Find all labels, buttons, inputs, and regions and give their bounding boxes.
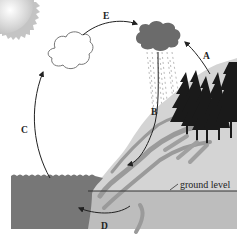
arrow-c [34,72,50,178]
label-d: D [101,221,108,231]
label-a: A [203,51,210,61]
arrow-e [83,21,137,35]
sun-icon [0,0,40,40]
label-b: B [151,107,158,117]
cloud-icon [48,32,93,69]
underground-layer [88,191,237,229]
rain-cloud-icon [136,21,180,51]
water-icon [11,175,103,230]
water-cycle-diagram: E A B C D ground level [0,0,237,240]
label-c: C [21,125,28,135]
label-ground-level: ground level [180,179,230,190]
label-e: E [103,11,109,21]
